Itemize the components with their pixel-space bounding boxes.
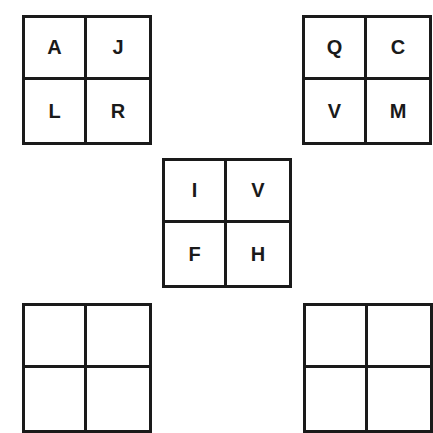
letter-grid-center: I V F H xyxy=(162,158,292,288)
letter-grid-top-left: A J L R xyxy=(22,15,152,145)
grid-cell: A xyxy=(25,18,87,80)
grid-cell xyxy=(25,306,87,368)
grid-cell: V xyxy=(305,80,367,142)
grid-cell: L xyxy=(25,80,87,142)
letter-grid-top-right: Q C V M xyxy=(302,15,432,145)
grid-cell: H xyxy=(227,223,289,285)
grid-cell: M xyxy=(367,80,429,142)
letter-grid-bottom-right xyxy=(303,303,433,433)
grid-cell xyxy=(25,368,87,430)
grid-cell xyxy=(87,368,149,430)
grid-cell: R xyxy=(87,80,149,142)
grid-cell xyxy=(306,306,368,368)
grid-cell: F xyxy=(165,223,227,285)
grid-cell: C xyxy=(367,18,429,80)
grid-cell: V xyxy=(227,161,289,223)
grid-cell: Q xyxy=(305,18,367,80)
grid-cell xyxy=(368,306,430,368)
grid-cell xyxy=(87,306,149,368)
grid-cell: J xyxy=(87,18,149,80)
grid-cell xyxy=(306,368,368,430)
letter-grid-bottom-left xyxy=(22,303,152,433)
grid-cell xyxy=(368,368,430,430)
grid-cell: I xyxy=(165,161,227,223)
